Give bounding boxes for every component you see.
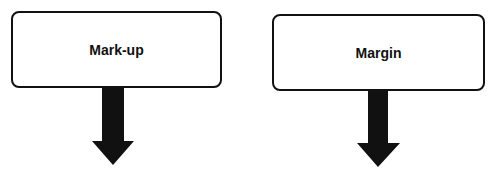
down-arrow-icon bbox=[92, 87, 134, 165]
markup-label: Mark-up bbox=[89, 42, 143, 58]
down-arrow-icon bbox=[357, 89, 400, 167]
margin-label: Margin bbox=[356, 45, 402, 61]
markup-box: Mark-up bbox=[11, 11, 222, 88]
margin-box: Margin bbox=[272, 14, 485, 91]
